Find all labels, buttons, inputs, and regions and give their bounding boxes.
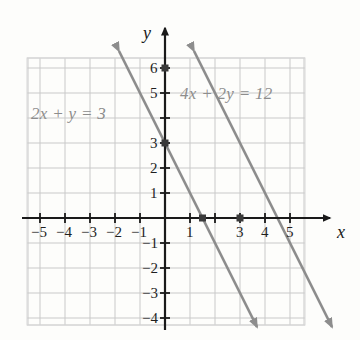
x-tick-label-3: 3 (236, 225, 244, 240)
y-tick-label-neg4: −4 (142, 311, 158, 326)
x-axis-label: x (337, 223, 345, 241)
x-tick-label-neg5: −5 (31, 225, 47, 240)
point-marker-0-3 (162, 140, 169, 147)
x-tick-label-5: 5 (286, 225, 294, 240)
y-tick-label-1: 1 (150, 186, 158, 201)
x-tick-label-neg4: −4 (56, 225, 72, 240)
graph-figure: y x −5 −4 −3 −2 −1 1 3 4 5 6 5 3 2 1 −1 … (0, 0, 360, 340)
y-tick-label-neg3: −3 (142, 286, 158, 301)
axes (22, 28, 330, 330)
point-marker-0-6 (162, 65, 169, 72)
y-tick-label-2: 2 (150, 161, 158, 176)
x-tick-label-neg2: −2 (106, 225, 122, 240)
y-tick-label-neg1: −1 (142, 236, 158, 251)
y-tick-label-neg2: −2 (142, 261, 158, 276)
y-tick-label-5: 5 (150, 86, 158, 101)
y-axis-label: y (143, 24, 151, 42)
x-tick-label-4: 4 (261, 225, 269, 240)
y-tick-label-3: 3 (150, 136, 158, 151)
point-marker-3-0 (237, 215, 244, 222)
point-marker-1p5-0 (199, 215, 206, 222)
x-tick-label-1: 1 (186, 225, 194, 240)
equation-label-lower: 2x + y = 3 (31, 105, 106, 122)
y-tick-label-6: 6 (150, 61, 158, 76)
equation-label-upper: 4x + 2y = 12 (180, 85, 273, 102)
x-tick-label-neg3: −3 (81, 225, 97, 240)
coordinate-plane-svg (0, 0, 360, 340)
